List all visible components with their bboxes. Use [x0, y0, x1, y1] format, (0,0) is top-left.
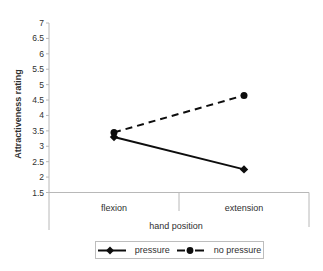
x-category-label: flexion	[101, 203, 127, 213]
data-point-diamond-pressure	[240, 165, 248, 173]
y-tick-label: 5	[39, 80, 44, 90]
y-tick-label: 2.5	[32, 157, 44, 167]
y-tick-label: 4.5	[32, 95, 44, 105]
series-line-pressure	[114, 137, 244, 169]
legend-label-pressure: pressure	[135, 245, 170, 255]
no-pressure-dashed-line-circle-icon	[177, 246, 205, 255]
x-axis-title: hand position	[149, 221, 203, 231]
line-chart: Attractiveness rating 76.565.554.543.532…	[0, 0, 323, 271]
x-category-label: extension	[225, 203, 264, 213]
y-tick-label: 3.5	[32, 126, 44, 136]
plot-area: 76.565.554.543.532.521.5flexionextension	[0, 0, 323, 236]
y-tick-label: 3	[39, 141, 44, 151]
legend-item-no-pressure: no pressure	[177, 245, 262, 255]
legend: pressure no pressure	[95, 241, 264, 259]
y-tick-label: 7	[39, 18, 44, 28]
data-point-circle-no-pressure	[241, 92, 248, 99]
y-tick-label: 6.5	[32, 33, 44, 43]
y-tick-label: 4	[39, 110, 44, 120]
series-line-no-pressure	[114, 95, 244, 132]
legend-item-pressure: pressure	[98, 245, 170, 255]
y-tick-label: 1.5	[32, 188, 44, 198]
y-tick-label: 6	[39, 49, 44, 59]
y-tick-label: 5.5	[32, 64, 44, 74]
legend-label-no-pressure: no pressure	[214, 245, 262, 255]
y-tick-label: 2	[39, 172, 44, 182]
pressure-solid-line-diamond-icon	[98, 246, 126, 255]
data-point-circle-no-pressure	[111, 129, 118, 136]
